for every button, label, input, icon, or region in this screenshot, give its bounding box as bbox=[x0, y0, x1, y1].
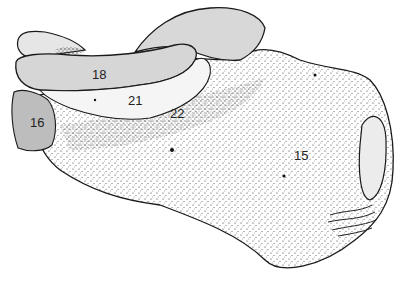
label-18: 18 bbox=[92, 68, 106, 81]
label-21: 21 bbox=[128, 94, 142, 107]
bone-illustration bbox=[0, 0, 397, 282]
label-22: 22 bbox=[170, 107, 184, 120]
label-16: 16 bbox=[30, 116, 44, 129]
label-15: 15 bbox=[294, 149, 308, 162]
